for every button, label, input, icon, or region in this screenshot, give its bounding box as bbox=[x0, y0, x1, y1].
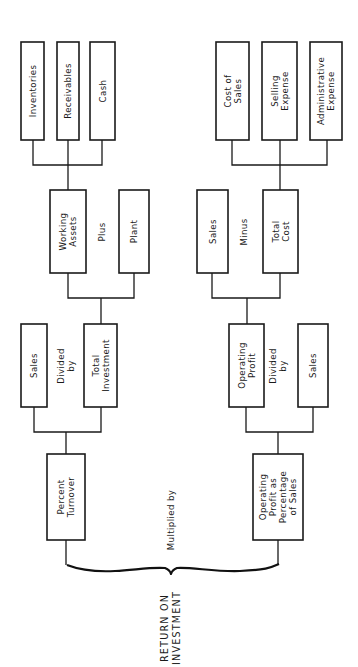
sales-box-3-label: Sales bbox=[308, 353, 318, 378]
operating-profit-percentage-box-label: OperatingProfit asPercentageof Sales bbox=[258, 471, 298, 523]
plant-box-label-line: Plant bbox=[129, 219, 139, 243]
divided-by-operator-1-line: by bbox=[66, 360, 76, 371]
divided-by-operator-1: Dividedby bbox=[56, 348, 76, 383]
sales-box-3-label-line: Sales bbox=[308, 353, 318, 378]
title-return-on-investment-line: RETURN ON bbox=[159, 594, 170, 662]
multiplied-by-operator-line: Multiplied by bbox=[166, 490, 176, 550]
selling-expense-box-label-line: Selling bbox=[270, 75, 280, 107]
total-cost-box-label-line: Total bbox=[271, 220, 281, 243]
margin-bracket bbox=[246, 407, 313, 432]
selling-expense-box-label: SellingExpense bbox=[270, 71, 290, 110]
divided-by-operator-2-line: by bbox=[278, 360, 288, 371]
plant-box-label: Plant bbox=[129, 219, 139, 243]
sales-box-2-label-line: Sales bbox=[208, 219, 218, 244]
percent-turnover-box-label: PercentTurnover bbox=[56, 477, 76, 519]
plus-operator-line: Plus bbox=[97, 222, 107, 241]
percent-turnover-box-label-line: Percent bbox=[56, 479, 66, 514]
divided-by-operator-2-line: Divided bbox=[268, 348, 278, 383]
cost-of-sales-box-label-line: Sales bbox=[233, 78, 243, 103]
title-return-on-investment: RETURN ONINVESTMENT bbox=[159, 591, 182, 665]
total-investment-bracket bbox=[68, 273, 134, 298]
total-cost-box-label-line: Cost bbox=[281, 221, 291, 242]
operating-profit-percentage-box-label-line: Percentage bbox=[278, 471, 288, 523]
plus-operator: Plus bbox=[97, 222, 107, 241]
operating-profit-percentage-box-label-line: of Sales bbox=[288, 478, 298, 515]
cash-box-label-line: Cash bbox=[98, 80, 108, 103]
total-cost-box-label: TotalCost bbox=[271, 220, 291, 243]
operating-profit-box-label-line: Profit bbox=[247, 353, 257, 378]
inventories-box-label: Inventories bbox=[28, 65, 38, 118]
title-return-on-investment-line: INVESTMENT bbox=[171, 591, 182, 665]
receivables-box-label: Receivables bbox=[63, 63, 73, 119]
divided-by-operator-1-line: Divided bbox=[56, 348, 66, 383]
cost-of-sales-box-label: Cost ofSales bbox=[223, 74, 243, 107]
operating-profit-percentage-box-label-line: Profit as bbox=[268, 478, 278, 517]
working-assets-box-label: WorkingAssets bbox=[58, 213, 78, 251]
operating-profit-percentage-box-label-line: Operating bbox=[258, 474, 268, 521]
minus-operator: Minus bbox=[239, 218, 249, 245]
operating-profit-box-label-line: Operating bbox=[237, 342, 247, 389]
minus-operator-line: Minus bbox=[239, 218, 249, 245]
labels: InventoriesReceivablesCashCost ofSalesSe… bbox=[28, 57, 337, 665]
roi-diagram: InventoriesReceivablesCashCost ofSalesSe… bbox=[0, 0, 358, 667]
sales-box-1-label-line: Sales bbox=[29, 353, 39, 378]
receivables-box-label-line: Receivables bbox=[63, 63, 73, 119]
sales-box-2-label: Sales bbox=[208, 219, 218, 244]
divided-by-operator-2: Dividedby bbox=[268, 348, 288, 383]
selling-expense-box-label-line: Expense bbox=[280, 71, 290, 110]
inventories-box-label-line: Inventories bbox=[28, 65, 38, 118]
administrative-expense-box-label-line: Expense bbox=[326, 71, 336, 110]
administrative-expense-box-label-line: Administrative bbox=[316, 57, 326, 125]
working-assets-box-label-line: Working bbox=[58, 213, 68, 251]
working-assets-box-label-line: Assets bbox=[68, 216, 78, 246]
multiplied-by-operator: Multiplied by bbox=[166, 490, 176, 550]
cash-box-label: Cash bbox=[98, 80, 108, 103]
percent-turnover-box-label-line: Turnover bbox=[66, 477, 76, 519]
total-investment-box-label-line: Total bbox=[91, 354, 101, 377]
total-investment-box-label-line: Investment bbox=[101, 339, 111, 392]
brace-icon bbox=[67, 564, 279, 574]
operating-profit-bracket bbox=[212, 273, 280, 298]
percent-turnover-bracket bbox=[34, 407, 101, 432]
cost-of-sales-box-label-line: Cost of bbox=[223, 74, 233, 107]
sales-box-1-label: Sales bbox=[29, 353, 39, 378]
